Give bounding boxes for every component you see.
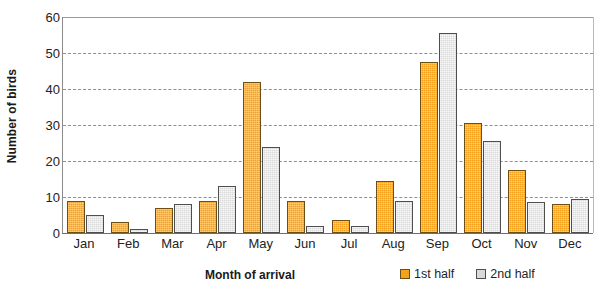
y-axis-tick-label: 30 xyxy=(26,119,60,132)
legend-entry: 1st half xyxy=(400,267,454,281)
x-axis-tick-labels: JanFebMarAprMayJunJulAugSepOctNovDec xyxy=(62,236,593,256)
bar-sep-first-half xyxy=(420,62,438,233)
bars-layer xyxy=(63,17,593,233)
plot-area xyxy=(62,17,594,233)
bar-may-first-half xyxy=(243,82,261,233)
y-axis-tick-label: 50 xyxy=(26,47,60,60)
legend-swatch-icon xyxy=(476,269,486,279)
bar-oct-second-half xyxy=(483,141,501,233)
bar-jun-second-half xyxy=(306,226,324,233)
x-axis-line xyxy=(62,233,593,234)
bar-jun-first-half xyxy=(287,201,305,233)
bar-group xyxy=(508,17,545,233)
bar-dec-first-half xyxy=(552,204,570,233)
x-axis-tick-label: Dec xyxy=(540,236,600,252)
legend-entry: 2nd half xyxy=(476,267,534,281)
y-axis-tick-label: 20 xyxy=(26,155,60,168)
bar-apr-second-half xyxy=(218,186,236,233)
bar-group xyxy=(287,17,324,233)
bar-group xyxy=(243,17,280,233)
y-axis-tick-label: 10 xyxy=(26,191,60,204)
bar-group xyxy=(420,17,457,233)
bar-nov-second-half xyxy=(527,202,545,233)
bar-group xyxy=(67,17,104,233)
y-axis-tick-label: 40 xyxy=(26,83,60,96)
y-axis-tick-label: 60 xyxy=(26,11,60,24)
y-axis-title: Number of birds xyxy=(2,0,22,233)
bar-group xyxy=(111,17,148,233)
bar-group xyxy=(155,17,192,233)
bar-jan-second-half xyxy=(86,215,104,233)
y-axis-tick-labels: 0102030405060 xyxy=(20,0,60,303)
bar-group xyxy=(464,17,501,233)
bar-mar-second-half xyxy=(174,204,192,233)
bar-group xyxy=(199,17,236,233)
bar-jan-first-half xyxy=(67,201,85,233)
bar-mar-first-half xyxy=(155,208,173,233)
bar-apr-first-half xyxy=(199,201,217,233)
bar-jul-first-half xyxy=(332,220,350,233)
legend-label: 2nd half xyxy=(490,267,534,281)
bar-oct-first-half xyxy=(464,123,482,233)
legend-label: 1st half xyxy=(414,267,454,281)
bar-aug-second-half xyxy=(395,201,413,233)
legend-swatch-icon xyxy=(400,269,410,279)
legend: 1st half2nd half xyxy=(400,267,535,281)
bar-chart: Number of birds 0102030405060 JanFebMarA… xyxy=(0,0,611,303)
bar-nov-first-half xyxy=(508,170,526,233)
bar-group xyxy=(376,17,413,233)
y-axis-title-text: Number of birds xyxy=(5,69,19,163)
bar-feb-first-half xyxy=(111,222,129,233)
bar-group xyxy=(332,17,369,233)
x-axis-title: Month of arrival xyxy=(150,268,350,282)
bar-may-second-half xyxy=(262,147,280,233)
bar-aug-first-half xyxy=(376,181,394,233)
bar-jul-second-half xyxy=(351,226,369,233)
bar-sep-second-half xyxy=(439,33,457,233)
bar-dec-second-half xyxy=(571,199,589,233)
bar-group xyxy=(552,17,589,233)
